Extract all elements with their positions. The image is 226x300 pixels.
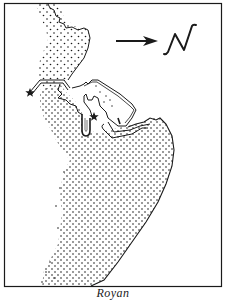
map-canvas [0,0,226,290]
map-figure [0,0,226,290]
map-caption: Royan [0,287,226,300]
